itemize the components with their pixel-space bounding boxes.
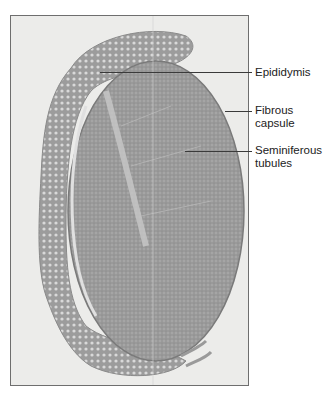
leader-line-epididymis [100, 72, 252, 73]
leader-line-seminiferous-tubules [185, 151, 252, 152]
label-epididymis: Epididymis [255, 66, 311, 79]
micrograph-figure: Epididymis Fibrous capsule Seminiferous … [0, 0, 328, 393]
leader-line-fibrous-capsule [225, 111, 252, 112]
label-seminiferous-tubules: Seminiferous tubules [255, 144, 322, 170]
micrograph-photo [10, 15, 249, 386]
label-fibrous-capsule: Fibrous capsule [255, 104, 295, 130]
